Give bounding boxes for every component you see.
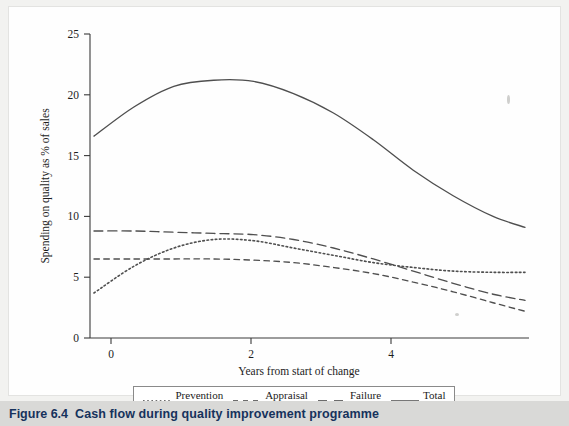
x-tick-label-2: 2 [248,348,254,360]
figure-caption-title: Cash flow during quality improvement pro… [75,407,379,421]
legend-entry-appraisal: Appraisal [232,389,308,401]
series-line-total [94,80,525,228]
x-axis-ticks: 0 2 4 [108,338,394,360]
line-dashed-long-icon [317,391,347,399]
y-axis-title: Spending on quality as % of sales [39,108,52,264]
legend-entry-total: Total [390,389,445,401]
figure-caption-bar: Figure 6.4 Cash flow during quality impr… [0,401,569,426]
y-tick-label-5: 5 [73,271,79,283]
legend-label-prevention: Prevention [175,389,223,401]
scan-speck [455,313,459,316]
legend-label-total: Total [423,389,445,401]
series-line-failure [94,231,525,300]
y-tick-label-15: 15 [68,150,80,162]
line-dotted-icon [142,391,172,399]
legend-entry-failure: Failure [317,389,381,401]
figure-caption-number: Figure 6.4 [0,407,75,421]
legend-entry-prevention: Prevention [142,389,223,401]
scan-speck [507,95,510,104]
chart-series-group [94,80,525,312]
chart-axes [90,34,529,338]
legend-label-appraisal: Appraisal [265,389,308,401]
y-tick-label-10: 10 [68,210,80,222]
y-tick-label-25: 25 [68,28,80,40]
figure-page: 25 20 15 10 5 0 0 2 4 Years fro [0,0,569,426]
y-tick-label-0: 0 [73,332,79,344]
x-axis-title: Years from start of change [238,365,359,378]
chart-plot-area: 25 20 15 10 5 0 0 2 4 Years fro [9,7,562,397]
x-tick-label-4: 4 [388,348,394,360]
line-chart-svg: 25 20 15 10 5 0 0 2 4 Years fro [9,7,562,397]
x-tick-label-0: 0 [108,348,114,360]
figure-frame: 25 20 15 10 5 0 0 2 4 Years fro [8,6,561,396]
line-solid-icon [390,391,420,399]
line-dashed-short-icon [232,391,262,399]
y-tick-label-20: 20 [68,89,80,101]
y-axis-ticks: 25 20 15 10 5 0 [68,28,91,344]
legend-label-failure: Failure [350,389,381,401]
